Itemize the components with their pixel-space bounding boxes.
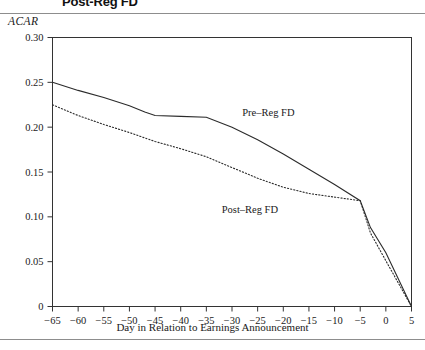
y-tick-label: 0.30: [25, 32, 43, 43]
y-tick-label: 0.25: [25, 77, 43, 88]
x-axis-title: Day in Relation to Earnings Announcement: [0, 321, 425, 333]
x-axis-ticks: [53, 307, 412, 312]
y-tick-label: 0.15: [25, 167, 43, 178]
plot-frame: [53, 38, 412, 307]
y-tick-label: 0: [38, 301, 43, 312]
divider-bottom: [0, 339, 425, 340]
series-paths: [53, 82, 412, 306]
figure-panel: Post-Reg FD ACAR 00.050.100.150.200.250.…: [0, 0, 425, 350]
y-axis-tick-labels: 00.050.100.150.200.250.30: [25, 32, 43, 312]
series-label-post-reg-fd: Post–Reg FD: [222, 204, 279, 215]
acar-line-chart: 00.050.100.150.200.250.30 −65−60−55−50−4…: [0, 0, 425, 350]
y-tick-label: 0.10: [25, 211, 43, 222]
y-axis-ticks: [48, 38, 53, 307]
series-label-pre-reg-fd: Pre–Reg FD: [242, 107, 295, 118]
series-line-pre-reg-fd: [53, 82, 412, 306]
y-tick-label: 0.05: [25, 256, 43, 267]
y-tick-label: 0.20: [25, 122, 43, 133]
